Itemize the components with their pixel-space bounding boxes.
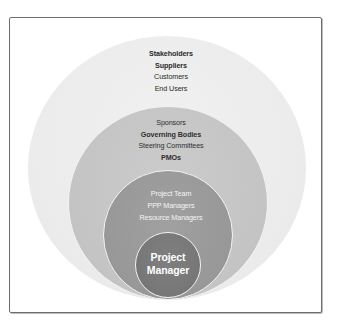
label-pmos: PMOs <box>0 152 342 164</box>
label-project: Project <box>135 251 201 264</box>
label-steering-committees: Steering Committees <box>0 140 342 152</box>
label-project-team: Project Team <box>0 188 342 200</box>
outer-ring-labels: Stakeholders Suppliers Customers End Use… <box>0 48 342 94</box>
third-ring-labels: Project Team PPP Managers Resource Manag… <box>0 188 342 224</box>
label-manager: Manager <box>135 264 201 277</box>
label-governing-bodies: Governing Bodies <box>0 129 342 141</box>
label-ppp-managers: PPP Managers <box>0 200 342 212</box>
label-customers: Customers <box>0 71 342 83</box>
label-resource-managers: Resource Managers <box>0 212 342 224</box>
second-ring-labels: Sponsors Governing Bodies Steering Commi… <box>0 117 342 163</box>
label-end-users: End Users <box>0 83 342 95</box>
inner-circle-labels: Project Manager <box>135 251 201 277</box>
label-stakeholders: Stakeholders <box>0 48 342 60</box>
label-sponsors: Sponsors <box>0 117 342 129</box>
label-suppliers: Suppliers <box>0 60 342 72</box>
